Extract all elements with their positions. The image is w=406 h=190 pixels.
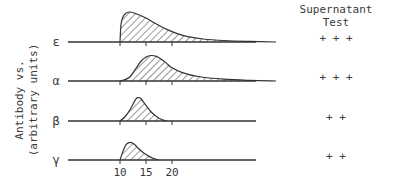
supernatant-result: + + + xyxy=(319,32,352,45)
series-label: α xyxy=(52,74,59,88)
x-tick-label: 20 xyxy=(165,166,178,179)
y-axis-label-line-1: Antibody vs. xyxy=(13,60,26,139)
y-axis-label-line-2: (arbitrary units) xyxy=(27,44,40,157)
series-label: β xyxy=(52,114,59,128)
right-header-line-1: Supernatant xyxy=(300,3,373,16)
y-axis-label: Antibody vs. (arbitrary units) xyxy=(13,44,40,157)
series-0: ε+ + + xyxy=(52,12,353,49)
series-label: ε xyxy=(52,35,59,49)
series-3: γ+ + xyxy=(52,142,346,167)
x-tick-label: 10 xyxy=(113,166,126,179)
supernatant-result: + + xyxy=(326,150,346,163)
series-1: α+ + + xyxy=(52,55,353,88)
series-2: β+ + xyxy=(52,97,346,128)
supernatant-result: + + + xyxy=(319,71,352,84)
supernatant-result: + + xyxy=(326,111,346,124)
right-header-line-2: Test xyxy=(323,16,350,29)
x-tick-label: 15 xyxy=(139,166,152,179)
chart: Antibody vs. (arbitrary units) Supernata… xyxy=(0,0,406,190)
series-label: γ xyxy=(52,153,59,167)
